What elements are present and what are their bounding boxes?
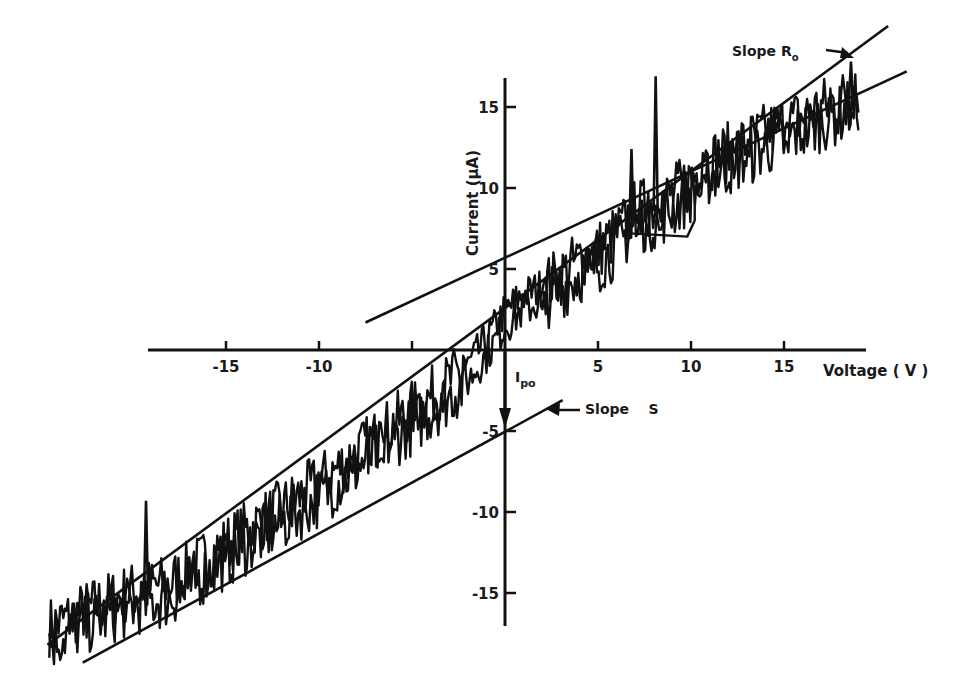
slope-s-label: Slope S xyxy=(585,401,659,417)
y-axis-title: Current (μA) xyxy=(464,150,482,256)
y-tick-label: -15 xyxy=(472,585,499,603)
y-tick-label: -10 xyxy=(472,504,499,522)
noisy-trace xyxy=(49,74,858,664)
spike xyxy=(654,76,658,211)
x-axis-ticks: -15-1051015 xyxy=(212,341,794,376)
y-tick-label: 15 xyxy=(478,99,499,117)
y-tick-label: -5 xyxy=(482,423,499,441)
iv-curve-chart: -15-1051015 -15-10-551015 Voltage ( V ) … xyxy=(0,0,966,683)
slope-s-arrow xyxy=(546,403,580,416)
data-traces xyxy=(47,26,906,664)
x-tick-label: 10 xyxy=(681,358,702,376)
x-tick-label: 15 xyxy=(774,358,795,376)
slope-r0-arrow xyxy=(826,47,854,58)
ipo-arrow xyxy=(499,352,511,428)
x-tick-label: -15 xyxy=(212,358,239,376)
x-axis-title: Voltage ( V ) xyxy=(823,362,928,380)
ipo-label: Ipo xyxy=(515,369,536,390)
x-tick-label: 5 xyxy=(593,358,603,376)
x-tick-label: -10 xyxy=(305,358,332,376)
slope-r0-label: Slope Ro xyxy=(732,43,799,63)
y-tick-label: 5 xyxy=(489,261,499,279)
